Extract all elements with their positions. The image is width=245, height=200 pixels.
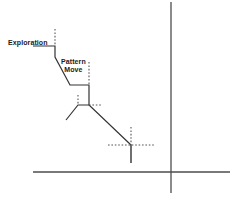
pattern-move-label-line2: Move (61, 66, 86, 74)
diagram-svg (0, 0, 245, 200)
pattern-move-label: PatternMove (61, 58, 86, 74)
branch-path (66, 105, 89, 120)
pattern-move-label-line1: Pattern (61, 58, 86, 65)
diagram-canvas: Exploration PatternMove (0, 0, 245, 200)
exploration-label: Exploration (8, 39, 48, 47)
